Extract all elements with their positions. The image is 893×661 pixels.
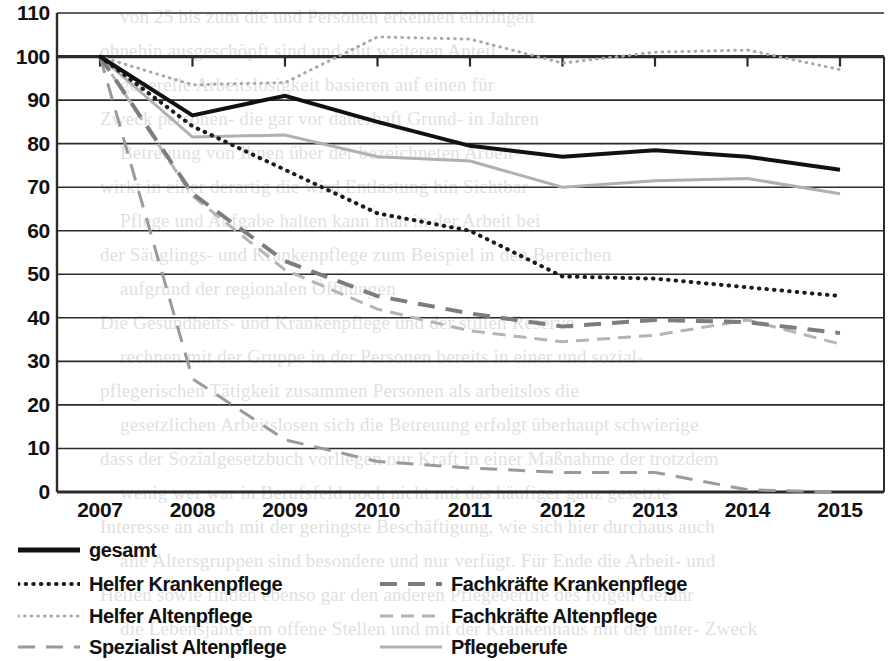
legend-item-fachkraefte-altenpflege[interactable]: Fachkräfte Altenpflege bbox=[380, 602, 657, 630]
legend-label-helfer-altenpflege: Helfer Altenpflege bbox=[89, 605, 252, 628]
y-axis-tick-label-70: 70 bbox=[4, 175, 50, 199]
y-axis-tick-label-110: 110 bbox=[4, 1, 50, 25]
line-chart: 0102030405060708090100110 bbox=[0, 0, 893, 500]
series-line-pflegeberufe bbox=[100, 57, 840, 194]
chart-gridlines bbox=[57, 13, 884, 492]
legend-label-gesamt: gesamt bbox=[89, 539, 157, 562]
y-axis-tick-label-10: 10 bbox=[4, 436, 50, 460]
legend-swatch-fachkraefte-krankenpflege bbox=[380, 575, 442, 593]
legend-swatch-helfer-altenpflege bbox=[18, 607, 80, 625]
legend-swatch-pflegeberufe bbox=[380, 638, 442, 656]
series-line-helfer-krankenpflege bbox=[100, 57, 840, 296]
x-axis-tick-label-2008: 2008 bbox=[148, 498, 238, 522]
legend-item-helfer-altenpflege[interactable]: Helfer Altenpflege bbox=[18, 602, 252, 630]
legend-item-spezialist-altenpflege[interactable]: Spezialist Altenpflege bbox=[18, 633, 286, 661]
y-axis-tick-label-80: 80 bbox=[4, 132, 50, 156]
x-axis-tick-label-2014: 2014 bbox=[703, 498, 793, 522]
legend-swatch-gesamt bbox=[18, 541, 80, 559]
y-axis-tick-label-30: 30 bbox=[4, 349, 50, 373]
legend-label-helfer-krankenpflege: Helfer Krankenpflege bbox=[89, 573, 282, 596]
y-axis-tick-label-60: 60 bbox=[4, 219, 50, 243]
y-axis-tick-label-40: 40 bbox=[4, 306, 50, 330]
x-axis-tick-label-2013: 2013 bbox=[610, 498, 700, 522]
chart-x-axis: 200720082009201020112012201320142015 bbox=[0, 498, 893, 532]
chart-axes bbox=[57, 13, 884, 492]
x-axis-tick-label-2015: 2015 bbox=[795, 498, 885, 522]
x-axis-tick-label-2007: 2007 bbox=[55, 498, 145, 522]
y-axis-tick-label-90: 90 bbox=[4, 88, 50, 112]
legend-item-gesamt[interactable]: gesamt bbox=[18, 536, 157, 564]
legend-swatch-helfer-krankenpflege bbox=[18, 575, 80, 593]
y-axis-tick-label-100: 100 bbox=[4, 45, 50, 69]
x-axis-tick-label-2011: 2011 bbox=[425, 498, 515, 522]
legend-item-fachkraefte-krankenpflege[interactable]: Fachkräfte Krankenpflege bbox=[380, 570, 687, 598]
legend-label-fachkraefte-krankenpflege: Fachkräfte Krankenpflege bbox=[451, 573, 687, 596]
y-axis-tick-label-50: 50 bbox=[4, 262, 50, 286]
y-axis-tick-label-20: 20 bbox=[4, 393, 50, 417]
legend-item-helfer-krankenpflege[interactable]: Helfer Krankenpflege bbox=[18, 570, 282, 598]
series-line-gesamt bbox=[100, 57, 840, 170]
chart-y-axis: 0102030405060708090100110 bbox=[0, 0, 50, 500]
legend-label-fachkraefte-altenpflege: Fachkräfte Altenpflege bbox=[451, 605, 657, 628]
legend-swatch-fachkraefte-altenpflege bbox=[380, 607, 442, 625]
legend-swatch-spezialist-altenpflege bbox=[18, 638, 80, 656]
x-axis-tick-label-2010: 2010 bbox=[333, 498, 423, 522]
legend-item-pflegeberufe[interactable]: Pflegeberufe bbox=[380, 633, 567, 661]
x-axis-tick-label-2012: 2012 bbox=[518, 498, 608, 522]
chart-series-group bbox=[100, 37, 840, 492]
x-axis-tick-label-2009: 2009 bbox=[240, 498, 330, 522]
legend-label-pflegeberufe: Pflegeberufe bbox=[451, 636, 567, 659]
series-line-fachkr-fte-krankenpflege bbox=[100, 57, 840, 334]
legend-label-spezialist-altenpflege: Spezialist Altenpflege bbox=[89, 636, 286, 659]
chart-plot-svg bbox=[0, 0, 893, 500]
chart-legend: gesamtHelfer KrankenpflegeFachkräfte Kra… bbox=[0, 534, 893, 661]
